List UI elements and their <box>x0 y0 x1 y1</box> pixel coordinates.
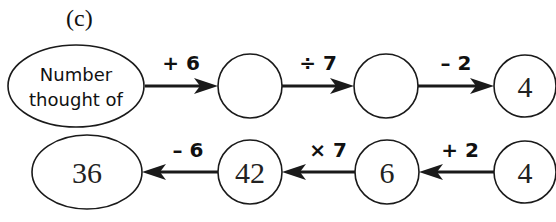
operation-label: – 2 <box>441 51 472 75</box>
operation-label: + 6 <box>162 51 200 75</box>
node-value: 36 <box>72 156 102 189</box>
forward-row: Number thought of + 6 ÷ 7 – 2 4 <box>8 45 556 127</box>
start-label-line1: Number <box>40 64 113 85</box>
node-value: 4 <box>518 156 533 189</box>
function-machine-diagram: (c) Number thought of + 6 ÷ 7 – 2 4 36 –… <box>0 0 556 222</box>
node-value: 6 <box>380 156 395 189</box>
start-ellipse <box>8 45 144 127</box>
node-value: 4 <box>518 70 533 103</box>
operation-label: ÷ 7 <box>299 51 337 75</box>
operation-label: + 2 <box>441 138 479 162</box>
node-value: 42 <box>235 156 265 189</box>
operation-label: × 7 <box>309 138 347 162</box>
operation-label: – 6 <box>173 138 204 162</box>
reverse-row: 36 – 6 42 × 7 6 + 2 4 <box>32 135 556 209</box>
blank-node <box>354 54 418 118</box>
start-label-line2: thought of <box>29 89 124 110</box>
part-label: (c) <box>66 5 93 31</box>
blank-node <box>218 54 282 118</box>
